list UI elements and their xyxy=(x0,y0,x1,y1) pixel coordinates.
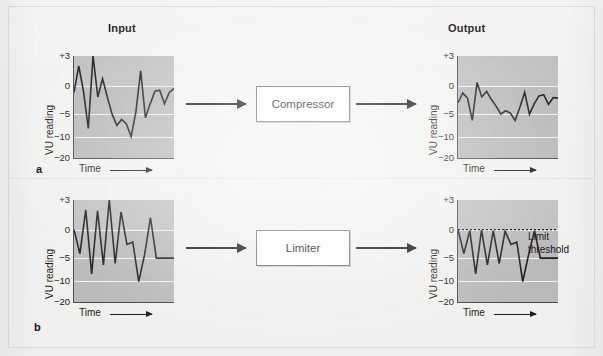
x-axis-label: Time xyxy=(79,163,101,174)
y-axis-tick-1: +3 xyxy=(418,195,454,205)
y-axis-tick-3: −5 xyxy=(34,109,70,119)
arrow-limiter-to-output xyxy=(356,247,416,249)
x-axis-arrow-icon xyxy=(494,314,536,315)
y-axis-tick-2: 0 xyxy=(34,225,70,235)
y-axis-tick-4: −10 xyxy=(34,276,70,286)
y-axis-tick-3: −5 xyxy=(34,253,70,263)
x-axis-arrow-icon xyxy=(110,314,152,315)
y-axis-tick-1: +3 xyxy=(34,51,70,61)
waveform-line xyxy=(458,83,558,121)
y-axis-tick-4: −10 xyxy=(418,276,454,286)
y-axis-line xyxy=(73,56,74,159)
y-axis-tick-1: +3 xyxy=(418,51,454,61)
chart-a-input: VU reading+30−5−10−20Time xyxy=(34,48,206,183)
arrow-input-to-limiter xyxy=(186,247,246,249)
waveform-svg xyxy=(458,56,558,158)
x-axis-line xyxy=(457,158,558,159)
arrow-compressor-to-output xyxy=(356,103,416,105)
panel-letter-a: a xyxy=(36,163,42,175)
y-axis-tick-2: 0 xyxy=(418,81,454,91)
y-axis-line xyxy=(457,56,458,159)
processor-box-limiter[interactable]: Limiter xyxy=(256,230,350,266)
panel-letter-b: b xyxy=(34,321,41,333)
x-axis-line xyxy=(457,302,558,303)
chart-b-input: VU reading+30−5−10−20Time xyxy=(34,192,206,327)
y-axis-tick-5: −20 xyxy=(418,297,454,307)
x-axis-arrow-icon xyxy=(110,170,152,171)
column-title-output-a: Output xyxy=(448,22,485,34)
chart-b-output: VU reading+30−5−10−20Time xyxy=(418,192,590,327)
y-axis-tick-5: −20 xyxy=(34,153,70,163)
y-axis-tick-3: −5 xyxy=(418,253,454,263)
waveform-line xyxy=(74,200,174,282)
y-axis-tick-4: −10 xyxy=(34,132,70,142)
y-axis-tick-4: −10 xyxy=(418,132,454,142)
y-axis-tick-3: −5 xyxy=(418,109,454,119)
processor-label-compressor: Compressor xyxy=(272,98,335,110)
y-axis-line xyxy=(457,200,458,303)
y-axis-tick-2: 0 xyxy=(418,225,454,235)
x-axis-label: Time xyxy=(463,307,485,318)
chart-a-output: VU reading+30−5−10−20Time xyxy=(418,48,590,183)
limit-threshold-annotation: Limit threshold xyxy=(528,231,569,256)
plot-area xyxy=(74,56,174,158)
processor-label-limiter: Limiter xyxy=(286,242,321,254)
waveform-svg xyxy=(74,200,174,302)
limit-threshold-line1: Limit xyxy=(528,231,569,244)
x-axis-line xyxy=(73,158,174,159)
processor-box-compressor[interactable]: Compressor xyxy=(256,86,350,122)
y-axis-line xyxy=(73,200,74,303)
plot-area xyxy=(74,200,174,302)
waveform-svg xyxy=(74,56,174,158)
x-axis-line xyxy=(73,302,174,303)
waveform-line xyxy=(74,56,174,137)
plot-area xyxy=(458,56,558,158)
arrow-input-to-compressor xyxy=(186,103,246,105)
y-axis-tick-2: 0 xyxy=(34,81,70,91)
y-axis-tick-1: +3 xyxy=(34,195,70,205)
column-title-input-a: Input xyxy=(108,22,136,34)
x-axis-label: Time xyxy=(463,163,485,174)
x-axis-label: Time xyxy=(79,307,101,318)
x-axis-arrow-icon xyxy=(494,170,536,171)
y-axis-tick-5: −20 xyxy=(34,297,70,307)
y-axis-tick-5: −20 xyxy=(418,153,454,163)
limit-threshold-line2: threshold xyxy=(528,244,569,257)
figure-compressor-limiter: Input Output VU reading+30−5−10−20Time C… xyxy=(0,0,603,356)
